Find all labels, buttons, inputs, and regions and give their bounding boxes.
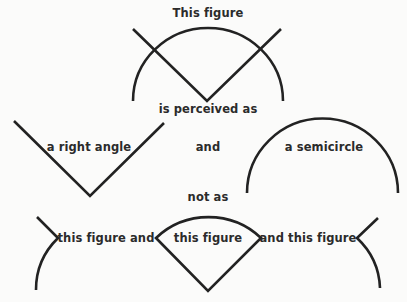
right-fragment-label: and this figure bbox=[260, 231, 357, 245]
left-fragment-label: this figure and bbox=[58, 231, 155, 245]
combined-arc bbox=[133, 28, 283, 101]
not-as-label: not as bbox=[188, 190, 229, 204]
perceived-label: is perceived as bbox=[159, 102, 258, 116]
combined-figure bbox=[133, 28, 283, 101]
semicircle-label: a semicircle bbox=[285, 140, 364, 154]
right-angle-shape bbox=[14, 121, 164, 196]
semicircle-shape bbox=[247, 119, 398, 193]
left-fragment-shape bbox=[36, 217, 58, 290]
and-label: and bbox=[196, 140, 220, 154]
middle-sector-shape bbox=[156, 217, 261, 291]
right-angle-label: a right angle bbox=[47, 140, 132, 154]
middle-fragment-label: this figure bbox=[174, 231, 242, 245]
perception-figure: This figure is perceived as a right angl… bbox=[0, 0, 407, 302]
right-fragment-shape bbox=[357, 218, 380, 288]
combined-v bbox=[133, 29, 281, 101]
title-label: This figure bbox=[173, 6, 244, 20]
